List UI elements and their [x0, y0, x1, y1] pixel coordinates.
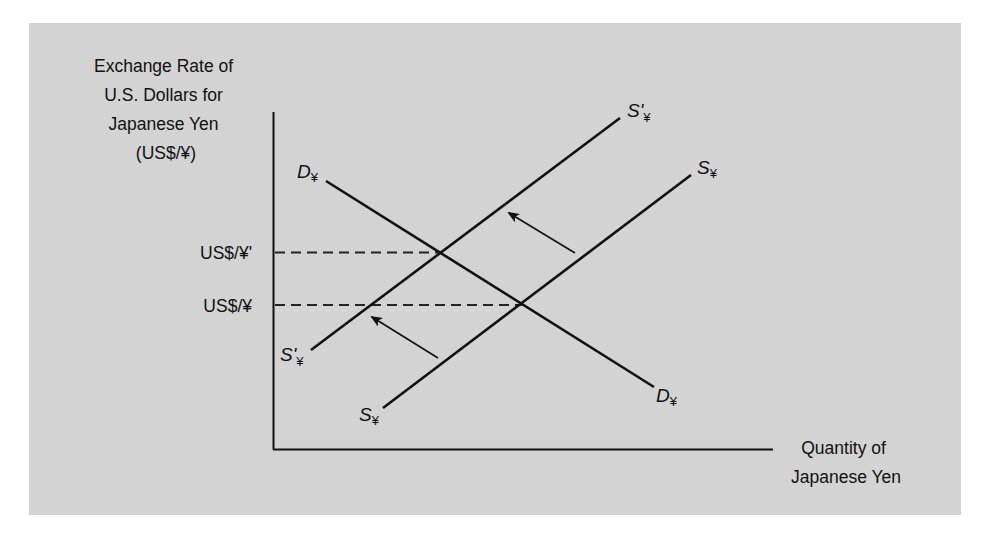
- demand-curve: [326, 181, 654, 387]
- y-axis-label: Exchange Rate of U.S. Dollars for Japane…: [94, 56, 238, 163]
- shift-arrow-upper: [509, 213, 575, 253]
- supply-label-top: S¥: [697, 157, 718, 181]
- supply-label-bottom: S¥: [359, 404, 380, 428]
- supply-curve: [383, 175, 691, 408]
- tick-label-upper: US$/¥': [200, 243, 252, 263]
- x-axis-label: Quantity of Japanese Yen: [791, 438, 901, 487]
- supply-shifted-label-top: S'¥: [627, 100, 651, 125]
- supply-demand-diagram: Exchange Rate of U.S. Dollars for Japane…: [0, 0, 983, 544]
- demand-label-bottom: D¥: [656, 385, 678, 409]
- supply-curve-shifted: [311, 118, 620, 350]
- tick-label-lower: US$/¥: [203, 296, 252, 316]
- demand-label-top: D¥: [297, 161, 319, 185]
- supply-shifted-label-bottom: S'¥: [280, 344, 304, 369]
- shift-arrow-lower: [372, 317, 438, 358]
